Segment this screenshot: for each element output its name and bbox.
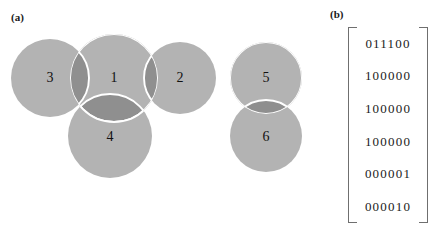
matrix-rows: 011100 100000 100000 100000 000001 00001… [357,27,419,223]
circle-label-5: 5 [263,70,270,85]
panel-a-circle-diagram: (a) [0,0,230,247]
matrix-row: 000001 [365,167,411,180]
matrix-row: 100000 [365,102,411,115]
circle-label-2: 2 [177,70,184,85]
matrix-row: 100000 [365,69,411,82]
venn-diagram-svg: 3 1 2 4 5 6 [0,0,320,200]
circle-label-1: 1 [111,70,118,85]
matrix-row: 011100 [365,37,410,50]
matrix-row: 000010 [365,200,411,213]
circle-label-4: 4 [107,129,114,144]
figure-root: (a) [0,0,440,247]
matrix-container: 011100 100000 100000 100000 000001 00001… [348,27,428,223]
matrix-left-bracket [348,27,357,223]
circle-label-3: 3 [47,70,54,85]
panel-b-label: (b) [330,8,343,20]
circle-label-6: 6 [263,129,270,144]
panel-b-matrix: (b) 011100 100000 100000 100000 000001 0… [330,0,440,247]
matrix-row: 100000 [365,135,411,148]
matrix-right-bracket [419,27,428,223]
